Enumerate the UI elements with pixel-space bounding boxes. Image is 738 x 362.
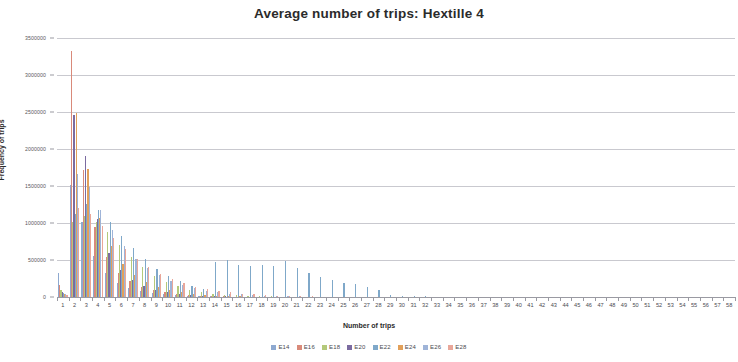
legend-item[interactable]: E22 <box>373 344 391 350</box>
x-axis-tick <box>232 297 233 301</box>
bar <box>183 283 184 297</box>
x-axis-tick-label: 51 <box>644 302 650 308</box>
x-axis-tick <box>373 297 374 301</box>
bar <box>160 274 161 297</box>
x-axis-tick <box>677 297 678 301</box>
bar <box>250 266 251 297</box>
x-axis-tick-label: 31 <box>410 302 416 308</box>
x-axis-tick-label: 10 <box>165 302 171 308</box>
x-axis-tick <box>618 297 619 301</box>
x-axis-tick-label: 52 <box>656 302 662 308</box>
legend-label: E24 <box>405 344 416 350</box>
x-axis-tick-label: 49 <box>621 302 627 308</box>
x-axis-tick <box>513 297 514 301</box>
bar <box>367 287 368 297</box>
legend-label: E18 <box>329 344 340 350</box>
x-axis-tick-label: 14 <box>212 302 218 308</box>
x-axis-tick-label: 57 <box>714 302 720 308</box>
x-axis-tick <box>162 297 163 301</box>
x-axis-tick <box>478 297 479 301</box>
y-axis-tick-label: 1000000 <box>25 220 46 226</box>
x-axis-tick-label: 58 <box>726 302 732 308</box>
x-axis-tick <box>197 297 198 301</box>
x-axis-tick <box>314 297 315 301</box>
x-axis-tick-label: 42 <box>539 302 545 308</box>
x-axis-tick-label: 3 <box>85 302 88 308</box>
x-axis-tick <box>209 297 210 301</box>
y-axis-tick <box>50 297 54 298</box>
legend-item[interactable]: E24 <box>398 344 416 350</box>
x-axis-tick-label: 26 <box>352 302 358 308</box>
y-axis-tick <box>50 75 54 76</box>
x-axis-tick-label: 46 <box>586 302 592 308</box>
x-axis-tick <box>302 297 303 301</box>
legend-label: E22 <box>380 344 391 350</box>
bar <box>102 226 103 297</box>
x-axis-tick-label: 54 <box>679 302 685 308</box>
x-axis-tick-label: 27 <box>364 302 370 308</box>
bar <box>343 283 344 297</box>
x-axis-tick-label: 28 <box>375 302 381 308</box>
x-axis-tick <box>606 297 607 301</box>
x-axis-tick <box>501 297 502 301</box>
chart-legend: E14E16E18E20E22E24E26E28 <box>0 344 738 350</box>
legend-swatch-icon <box>271 345 276 350</box>
y-axis-tick-label: 2000000 <box>25 146 46 152</box>
bar <box>172 279 173 297</box>
legend-swatch-icon <box>448 345 453 350</box>
x-axis-tick-label: 36 <box>469 302 475 308</box>
legend-label: E14 <box>278 344 289 350</box>
x-axis-tick <box>712 297 713 301</box>
x-axis-labels: 1234567891011121314151617181920212223242… <box>57 302 735 314</box>
legend-item[interactable]: E14 <box>271 344 289 350</box>
x-axis-tick-label: 18 <box>258 302 264 308</box>
bar <box>195 287 196 298</box>
x-axis-tick <box>349 297 350 301</box>
bar <box>78 208 79 297</box>
x-axis-tick-label: 20 <box>282 302 288 308</box>
bar <box>148 267 149 297</box>
y-axis-tick-label: 1500000 <box>25 183 46 189</box>
x-axis-tick <box>443 297 444 301</box>
chart-title: Average number of trips: Hextille 4 <box>0 6 738 21</box>
x-axis-tick-label: 39 <box>504 302 510 308</box>
x-axis-tick <box>69 297 70 301</box>
legend-item[interactable]: E28 <box>448 344 466 350</box>
legend-swatch-icon <box>297 345 302 350</box>
x-axis-tick <box>454 297 455 301</box>
x-axis-tick <box>256 297 257 301</box>
y-axis-tick <box>50 260 54 261</box>
x-axis-tick <box>291 297 292 301</box>
x-axis-tick-label: 50 <box>633 302 639 308</box>
x-axis-tick <box>139 297 140 301</box>
legend-item[interactable]: E26 <box>423 344 441 350</box>
plot-area <box>57 38 735 297</box>
bar <box>113 238 114 297</box>
bar <box>355 284 356 297</box>
x-axis-tick-label: 5 <box>108 302 111 308</box>
bar <box>215 262 216 297</box>
x-axis-tick <box>583 297 584 301</box>
x-axis-tick-label: 37 <box>481 302 487 308</box>
legend-swatch-icon <box>322 345 327 350</box>
x-axis-tick-label: 2 <box>73 302 76 308</box>
x-axis-tick <box>536 297 537 301</box>
x-axis-tick-label: 25 <box>340 302 346 308</box>
x-axis-tick-label: 48 <box>609 302 615 308</box>
chart-container: Average number of trips: Hextille 4 Freq… <box>0 0 738 362</box>
x-axis-tick-label: 44 <box>562 302 568 308</box>
x-axis-tick <box>115 297 116 301</box>
legend-item[interactable]: E16 <box>297 344 315 350</box>
legend-item[interactable]: E18 <box>322 344 340 350</box>
x-axis-tick <box>641 297 642 301</box>
x-axis-tick-label: 19 <box>270 302 276 308</box>
legend-label: E26 <box>430 344 441 350</box>
x-axis-tick <box>548 297 549 301</box>
x-axis-tick-label: 9 <box>155 302 158 308</box>
x-axis-tick-label: 30 <box>399 302 405 308</box>
x-axis-tick <box>571 297 572 301</box>
y-axis-tick <box>50 223 54 224</box>
legend-item[interactable]: E20 <box>347 344 365 350</box>
x-axis-tick <box>279 297 280 301</box>
bar <box>238 265 239 297</box>
